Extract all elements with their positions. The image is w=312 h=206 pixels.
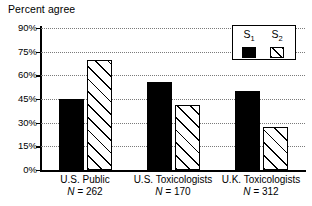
y-axis-tick-label: 75%	[18, 47, 37, 57]
category-sample-size: N = 312	[217, 186, 305, 198]
y-axis-tick-mark	[36, 28, 41, 29]
category-sample-size: N = 262	[41, 186, 129, 198]
y-axis-tick-label: 45%	[18, 94, 37, 104]
category-name: U.K. Toxicologists	[217, 174, 305, 186]
solid-black-swatch	[242, 47, 256, 58]
y-axis-tick-mark	[36, 146, 41, 147]
legend-label-s2: S2	[264, 28, 290, 45]
bar-s2-group-1	[87, 60, 112, 170]
category-sample-size: N = 170	[129, 186, 217, 198]
legend-label-s2-subscript: 2	[278, 34, 282, 43]
y-axis-tick-label: 30%	[18, 118, 37, 128]
y-axis-tick-mark	[36, 52, 41, 53]
category-name: U.S. Public	[41, 174, 129, 186]
y-axis-tick-mark	[36, 123, 41, 124]
bar-chart: Percent agree 0%15%30%45%60%75%90% S1 S2…	[0, 0, 312, 206]
category-label-1: U.S. PublicN = 262	[41, 174, 129, 198]
legend: S1 S2	[232, 25, 296, 60]
legend-entry-s1: S1	[236, 28, 262, 58]
bar-s1-group-3	[235, 91, 260, 170]
category-name: U.S. Toxicologists	[129, 174, 217, 186]
bar-s2-group-2	[175, 105, 200, 170]
category-label-2: U.S. ToxicologistsN = 170	[129, 174, 217, 198]
y-axis-tick-mark	[36, 170, 41, 171]
y-axis-tick-label: 15%	[18, 141, 37, 151]
y-axis-tick-labels: 0%15%30%45%60%75%90%	[0, 0, 37, 206]
bar-s1-group-2	[147, 82, 172, 170]
y-axis-tick-label: 60%	[18, 70, 37, 80]
y-axis-tick-label: 90%	[18, 23, 37, 33]
gridline	[41, 75, 305, 76]
y-axis-tick-mark	[36, 75, 41, 76]
legend-entry-s2: S2	[264, 28, 290, 58]
legend-label-s1-subscript: 1	[250, 34, 254, 43]
y-axis-tick-mark	[36, 99, 41, 100]
x-axis-line	[40, 170, 306, 172]
bar-s1-group-1	[59, 99, 84, 170]
legend-label-s1: S1	[236, 28, 262, 45]
bar-s2-group-3	[263, 127, 288, 170]
category-label-3: U.K. ToxicologistsN = 312	[217, 174, 305, 198]
hatched-swatch	[270, 47, 284, 58]
y-axis-tick-label: 0%	[23, 165, 37, 175]
